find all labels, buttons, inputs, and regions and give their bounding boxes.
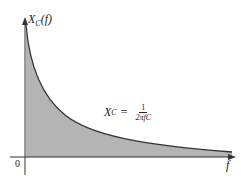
area-under-curve — [26, 25, 232, 157]
formula-fraction: 1 2πfC — [135, 103, 151, 122]
formula-lhs-symbol: X — [104, 105, 111, 120]
formula-denominator: 2πfC — [135, 113, 151, 122]
reactance-formula: XC = 1 2πfC — [104, 103, 151, 122]
formula-equals: = — [121, 105, 128, 120]
y-axis-label: XC(f) — [28, 12, 52, 28]
origin-label: 0 — [15, 158, 20, 169]
y-axis-arg: (f) — [41, 12, 52, 26]
formula-numerator: 1 — [139, 103, 147, 113]
formula-lhs-subscript: C — [111, 108, 116, 117]
x-axis-label: f — [226, 158, 229, 173]
